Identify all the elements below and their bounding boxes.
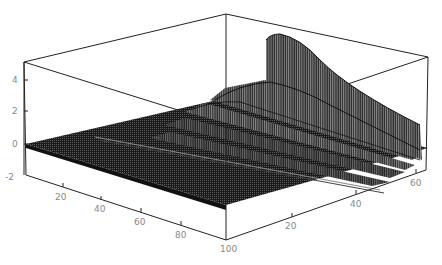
x-tick-label: 20 xyxy=(55,192,67,202)
z-tick-label: 0 xyxy=(12,139,18,149)
y-tick-label: 20 xyxy=(285,221,297,231)
x-tick-label: 60 xyxy=(134,217,146,227)
surface-plot: 4 2 0 -2 20 40 60 80 100 20 40 60 xyxy=(0,0,442,265)
y-tick-label: 60 xyxy=(410,178,422,188)
y-tick-label: 40 xyxy=(350,199,362,209)
x-tick-label: 80 xyxy=(175,230,187,240)
z-tick-label: 2 xyxy=(12,106,18,116)
x-tick-label: 100 xyxy=(220,244,237,254)
x-tick-label: 40 xyxy=(94,204,106,214)
z-tick-label: 4 xyxy=(12,75,18,85)
z-tick-label: -2 xyxy=(5,172,14,182)
surface-mesh xyxy=(26,34,428,210)
